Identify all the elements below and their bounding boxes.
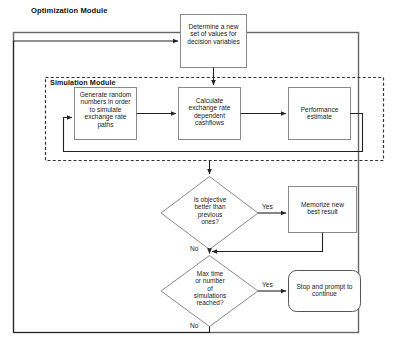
- flowchart-diagram: Optimization Module Simulation Module De…: [0, 0, 402, 348]
- generate-node-label: Generate random numbers in order to simu…: [74, 91, 137, 128]
- edge-label-maxtime-no: No: [190, 322, 198, 329]
- stop-node-label: Stop and prompt to continue: [288, 283, 361, 298]
- objective-decision-label: Is objective better than previous ones?: [179, 196, 241, 225]
- maxtime-decision-label: Max time or number of simulations reache…: [179, 270, 241, 306]
- performance-node-label: Performance estimate: [288, 106, 351, 121]
- simulation-module-label: Simulation Module: [50, 79, 170, 87]
- edge-maxtime-no-to-left: [14, 327, 210, 333]
- determine-node-label: Determine a new set of values for decisi…: [181, 23, 246, 45]
- edge-label-maxtime-yes: Yes: [262, 281, 273, 288]
- calculate-node-label: Calculate exchange rate dependent cashfl…: [178, 97, 241, 127]
- optimization-module-label: Optimization Module: [31, 7, 171, 16]
- edge-label-objective-no: No: [190, 245, 198, 252]
- memorize-node-label: Memorize new best result: [288, 201, 357, 216]
- edge-label-objective-yes: Yes: [262, 203, 273, 210]
